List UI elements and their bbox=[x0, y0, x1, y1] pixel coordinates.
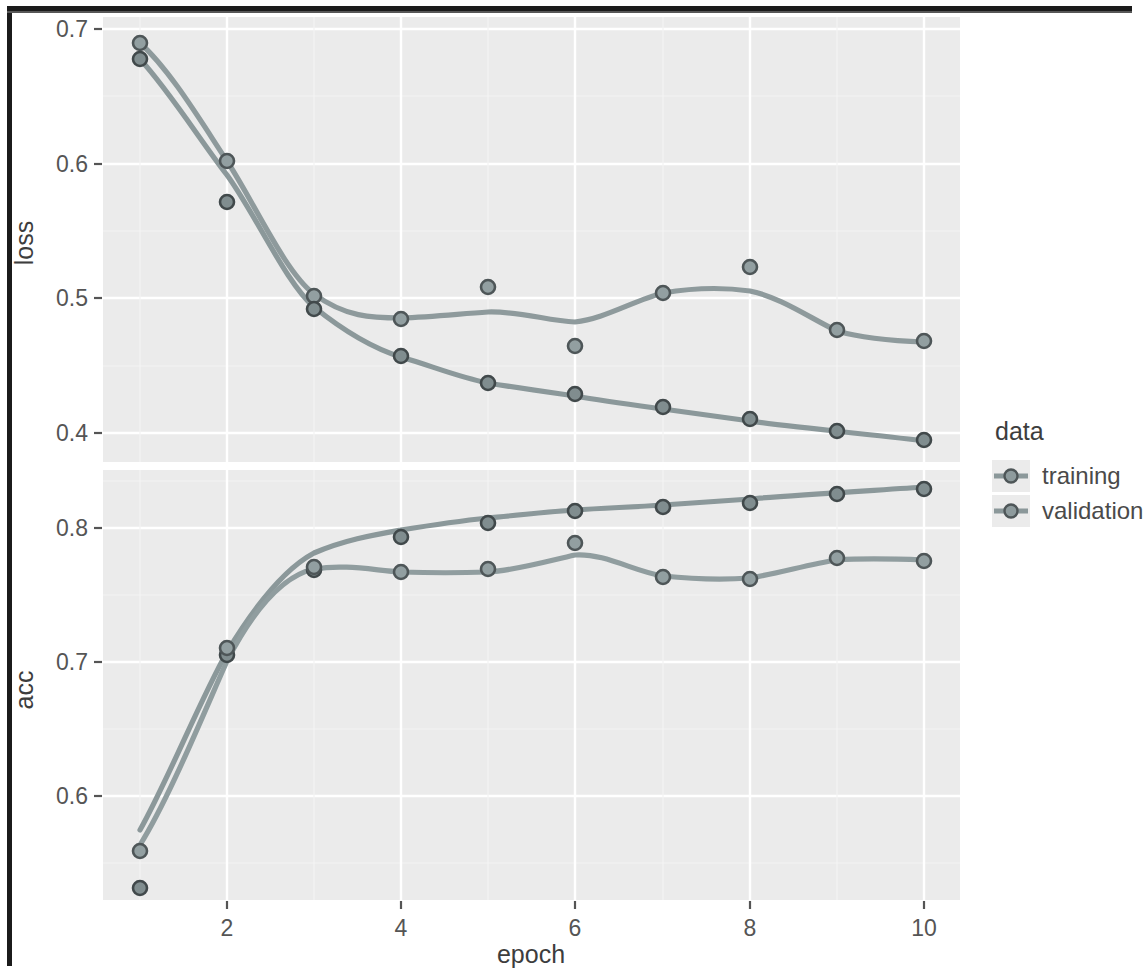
x-tick-label-2: 2 bbox=[221, 915, 234, 941]
x-axis-ticks bbox=[227, 901, 924, 909]
panel-loss: 0.7 0.6 0.5 0.4 loss bbox=[10, 16, 960, 462]
acc-y-tick-label-0.6: 0.6 bbox=[56, 783, 88, 809]
x-tick-label-8: 8 bbox=[744, 915, 757, 941]
legend-item-training[interactable]: training bbox=[992, 460, 1121, 492]
x-axis-title: epoch bbox=[497, 940, 565, 968]
legend-title: data bbox=[995, 417, 1044, 445]
legend-item-validation[interactable]: validation bbox=[992, 495, 1143, 527]
legend-label-training: training bbox=[1042, 462, 1121, 489]
acc-y-tick-label-0.8: 0.8 bbox=[56, 515, 88, 541]
loss-y-tick-label-0.6: 0.6 bbox=[56, 151, 88, 177]
x-tick-label-10: 10 bbox=[911, 915, 937, 941]
panel-acc-axis-title: acc bbox=[10, 671, 38, 710]
panel-loss-axis-title: loss bbox=[10, 221, 38, 265]
panel-loss-y-ticks bbox=[94, 29, 102, 433]
panel-acc: 0.8 0.7 0.6 acc bbox=[10, 470, 960, 900]
panel-loss-background bbox=[103, 17, 960, 462]
x-tick-label-4: 4 bbox=[395, 915, 408, 941]
acc-y-tick-label-0.7: 0.7 bbox=[56, 649, 88, 675]
loss-y-tick-label-0.5: 0.5 bbox=[56, 285, 88, 311]
faceted-line-chart: 0.7 0.6 0.5 0.4 loss bbox=[0, 0, 1144, 974]
x-axis: 2 4 6 8 10 epoch bbox=[221, 901, 937, 968]
loss-y-tick-label-0.7: 0.7 bbox=[56, 16, 88, 42]
panel-acc-y-ticks bbox=[94, 528, 102, 796]
legend-label-validation: validation bbox=[1042, 497, 1143, 524]
panel-acc-background bbox=[103, 470, 960, 900]
loss-y-tick-label-0.4: 0.4 bbox=[56, 420, 88, 446]
x-tick-label-6: 6 bbox=[569, 915, 582, 941]
legend: data training validation bbox=[992, 417, 1143, 527]
chart-page: 0.7 0.6 0.5 0.4 loss bbox=[0, 0, 1144, 974]
